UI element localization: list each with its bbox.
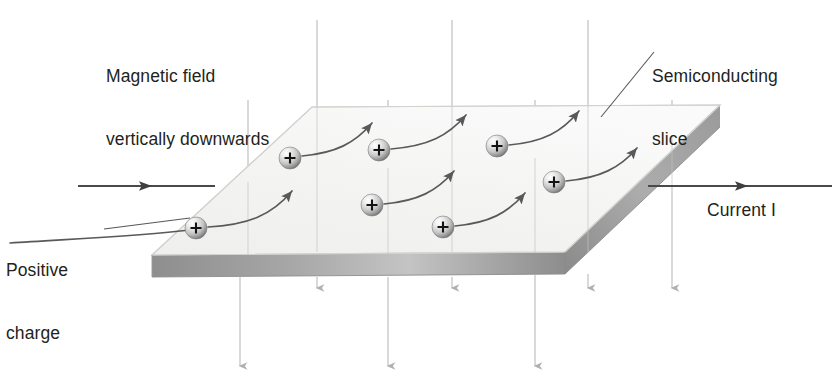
positive-charge	[432, 216, 454, 238]
positive-charge	[361, 194, 383, 216]
label-magnetic-field-line1: Magnetic field	[106, 66, 269, 87]
label-semiconducting-line2: slice	[652, 129, 778, 150]
label-magnetic-field: Magnetic field vertically downwards	[106, 24, 269, 192]
label-current-word: Current	[707, 200, 766, 221]
label-current: Current I	[707, 158, 776, 263]
label-positive-charge: Positive charge	[6, 218, 68, 386]
slab-front-face	[152, 252, 565, 277]
positive-charge	[486, 135, 508, 157]
label-positive-charge-line1: Positive	[6, 260, 68, 281]
label-magnetic-field-line2: vertically downwards	[106, 129, 269, 150]
label-current-symbol: I	[771, 200, 776, 221]
positive-charge	[543, 171, 565, 193]
positive-charge	[279, 147, 301, 169]
positive-charge	[185, 217, 207, 239]
leader-positive-charge	[104, 218, 190, 229]
label-positive-charge-line2: charge	[6, 323, 68, 344]
positive-charge	[368, 139, 390, 161]
figure-canvas: Magnetic field vertically downwards Semi…	[0, 0, 838, 388]
label-semiconducting-line1: Semiconducting	[652, 66, 778, 87]
